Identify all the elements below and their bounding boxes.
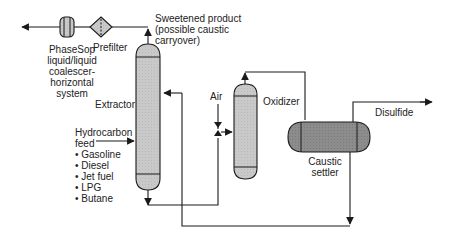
coalescer-label-line: horizontal [36,77,108,88]
coalescer-label-line: coalescer- [36,66,108,77]
oxidizer-vessel-icon [234,84,257,179]
feed-label-line: feed [75,138,132,149]
feed-item: • Butane [75,193,132,204]
sweetened-product-line-text: Sweetened product [155,13,241,24]
caustic-settler-vessel-icon [288,122,370,152]
settler-label-line: settler [300,167,350,178]
sweetened-product-line-text: (possible caustic [155,24,241,35]
sweetened-product-label: Sweetened product (possible caustic carr… [155,13,241,46]
feed-item: • LPG [75,182,132,193]
sweetened-product-line-text: carryover) [155,35,241,46]
coalescer-label-line: liquid/liquid [36,55,108,66]
settler-label-line: Caustic [300,156,350,167]
coalescer-label-line: system [36,88,108,99]
hydrocarbon-feed-label: Hydrocarbon feed • Gasoline • Diesel • J… [75,127,132,204]
extractor-vessel-icon [136,44,160,190]
coalescer-vessel-icon [60,17,74,37]
extractor-label: Extractor [95,99,135,110]
oxidizer-label: Oxidizer [263,96,300,107]
prefilter-label: Prefilter [93,42,127,53]
feed-item: • Gasoline [75,149,132,160]
feed-item: • Diesel [75,160,132,171]
air-label: Air [210,91,222,102]
prefilter-icon [90,17,112,37]
disulfide-label: Disulfide [375,107,413,118]
caustic-settler-label: Caustic settler [300,156,350,178]
feed-label-line: Hydrocarbon [75,127,132,138]
feed-item: • Jet fuel [75,171,132,182]
